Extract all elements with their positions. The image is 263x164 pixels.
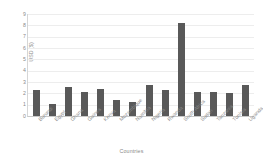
x-axis-labels: BurundiEgyptGhanaGuineaKenyaMozambiqueNa… — [27, 117, 253, 147]
bar — [178, 23, 185, 116]
y-axis-tick-label: 0 — [17, 113, 26, 120]
x-axis-title: Countries — [0, 148, 263, 154]
y-axis-ticks: 0123456789 — [17, 11, 26, 117]
y-axis-tick-label: 9 — [17, 11, 26, 18]
y-axis-tick-label: 3 — [17, 79, 26, 86]
y-axis-tick-label: 2 — [17, 90, 26, 97]
y-axis-tick-label: 5 — [17, 56, 26, 63]
bar-chart: USD ($) 0123456789 BurundiEgyptGhanaGuin… — [0, 0, 263, 164]
y-axis-tick-label: 8 — [17, 22, 26, 29]
bar — [33, 90, 40, 116]
y-axis-tick-label: 4 — [17, 67, 26, 74]
y-axis-tick-label: 7 — [17, 33, 26, 40]
y-axis-tick-label: 6 — [17, 45, 26, 52]
y-axis-tick-label: 1 — [17, 101, 26, 108]
